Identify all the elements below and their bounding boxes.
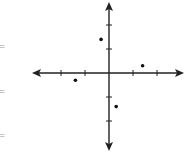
data-point [141, 64, 145, 68]
data-point [74, 78, 78, 82]
data-point [114, 105, 118, 109]
data-point [99, 38, 103, 42]
coordinate-plane [0, 0, 188, 161]
